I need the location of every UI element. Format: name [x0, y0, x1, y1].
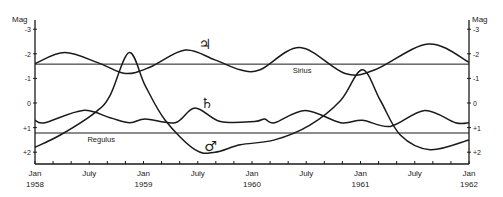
x-tick-label: Jan [463, 169, 476, 178]
axes: -3-3-2-2-1-100+1+1+2+2Jan1958JulyJan1959… [23, 20, 481, 189]
y-tick-label-left: -3 [25, 26, 31, 33]
x-tick-label: Jan [137, 169, 150, 178]
y-tick-label-right: 0 [473, 100, 477, 107]
y-axis-label-left: Mag [12, 15, 28, 24]
y-tick-label-right: +1 [473, 125, 481, 132]
reference-lines: SiriusRegulus [35, 64, 469, 144]
x-tick-label: July [299, 169, 313, 178]
x-tick-year: 1960 [243, 180, 261, 189]
x-tick-label: July [191, 169, 205, 178]
saturn-symbol-icon: ♄ [201, 95, 214, 111]
y-tick-label-right: -1 [473, 75, 479, 82]
x-tick-label: Jan [29, 169, 42, 178]
series-jupiter [35, 44, 469, 75]
x-tick-year: 1958 [26, 180, 44, 189]
magnitude-chart: -3-3-2-2-1-100+1+1+2+2Jan1958JulyJan1959… [0, 0, 503, 197]
y-axis-label-right: Mag [472, 15, 488, 24]
y-tick-label-left: 0 [27, 100, 31, 107]
mars-symbol-icon: ♂ [204, 138, 217, 154]
y-tick-label-right: -2 [473, 51, 479, 58]
y-tick-label-right: -3 [473, 26, 479, 33]
series-saturn [35, 108, 469, 127]
y-tick-label-right: +2 [473, 149, 481, 156]
jupiter-symbol-icon: ♃ [199, 36, 212, 52]
x-tick-year: 1962 [460, 180, 478, 189]
y-tick-label-left: -1 [25, 75, 31, 82]
x-tick-label: Jan [354, 169, 367, 178]
x-tick-label: July [82, 169, 96, 178]
reference-label-regulus: Regulus [87, 135, 115, 144]
x-tick-year: 1961 [352, 180, 370, 189]
x-tick-label: July [408, 169, 422, 178]
y-tick-label-left: +2 [23, 149, 31, 156]
x-tick-year: 1959 [135, 180, 153, 189]
y-tick-label-left: +1 [23, 125, 31, 132]
x-tick-label: Jan [246, 169, 259, 178]
reference-label-sirius: Sirius [293, 66, 312, 75]
y-tick-label-left: -2 [25, 51, 31, 58]
